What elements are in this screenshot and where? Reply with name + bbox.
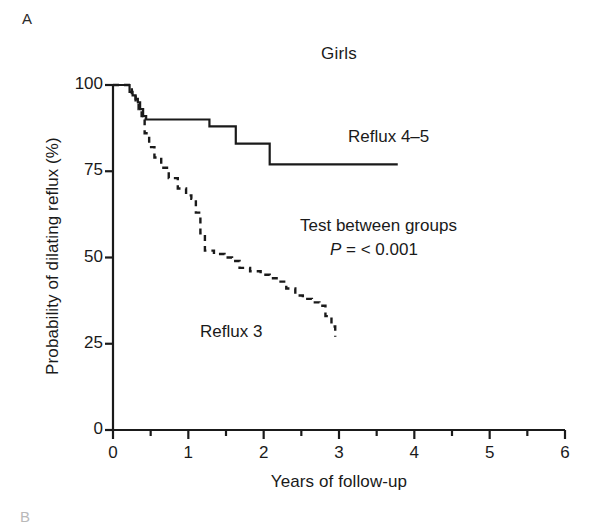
x-tick-label: 1 — [175, 443, 201, 463]
axes — [105, 85, 565, 439]
x-tick-label: 3 — [326, 443, 352, 463]
series-line-reflux-3 — [113, 85, 335, 337]
x-tick-label: 4 — [401, 443, 427, 463]
series-lines — [113, 85, 398, 337]
figure-panel-a: A B Girls Probability of dilating reflux… — [0, 0, 590, 527]
y-tick-label: 75 — [57, 160, 103, 180]
y-tick-label: 25 — [57, 333, 103, 353]
x-tick-label: 0 — [100, 443, 126, 463]
x-tick-label: 5 — [477, 443, 503, 463]
y-tick-label: 100 — [57, 74, 103, 94]
y-tick-label: 0 — [57, 419, 103, 439]
x-tick-label: 6 — [552, 443, 578, 463]
y-tick-label: 50 — [57, 247, 103, 267]
x-tick-label: 2 — [251, 443, 277, 463]
series-line-reflux-4-5 — [113, 85, 398, 164]
